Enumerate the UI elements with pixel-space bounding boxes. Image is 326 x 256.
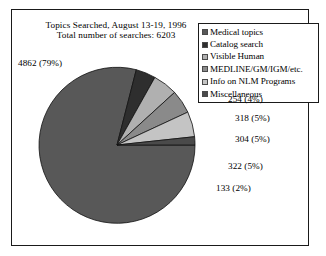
pie-chart-graphic bbox=[11, 9, 309, 246]
pie-label-medline: 304 (5%) bbox=[235, 134, 270, 144]
pie-label-info-nlm-programs: 322 (5%) bbox=[228, 161, 263, 171]
pie-label-visible-human: 318 (5%) bbox=[235, 113, 270, 123]
pie-label-catalog-search: 254 (4%) bbox=[228, 94, 263, 104]
pie-label-medical-topics: 4862 (79%) bbox=[18, 58, 62, 68]
pie-slices bbox=[39, 67, 195, 223]
pie-label-miscellaneous: 133 (2%) bbox=[216, 183, 251, 193]
